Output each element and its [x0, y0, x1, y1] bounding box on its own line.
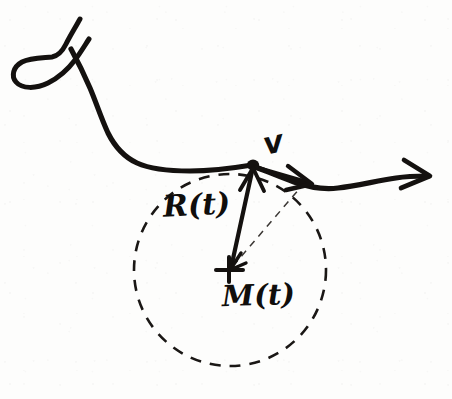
radius-arrow: [230, 167, 264, 270]
center-label: M(t): [221, 277, 295, 314]
secondary-radius-dashed-line: [233, 181, 306, 266]
sketch-canvas: R(t) M(t) v: [0, 0, 452, 399]
trajectory-curve: [13, 19, 430, 189]
radius-label: R(t): [162, 185, 231, 223]
